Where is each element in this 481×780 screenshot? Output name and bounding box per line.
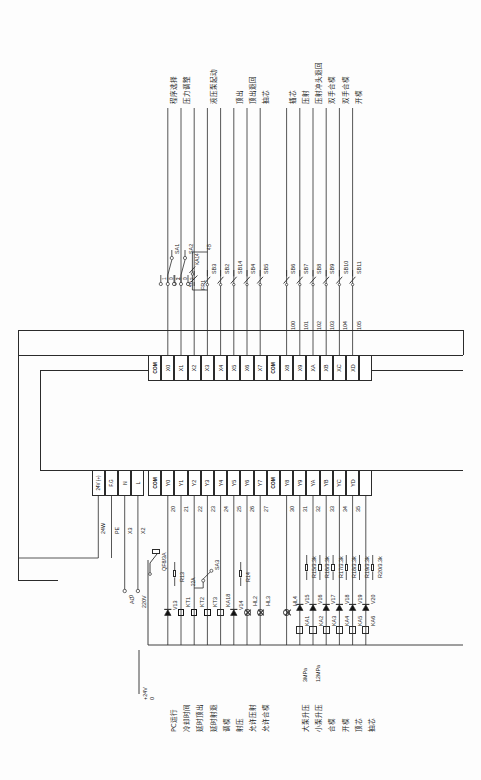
resistor-label-R17/3.3k: R17/3.3k — [339, 556, 344, 578]
input-terminal-blank[interactable] — [359, 355, 372, 381]
output-terminal-wire-22: 22 — [198, 506, 203, 512]
psu-wire-X2: X2 — [141, 527, 146, 534]
indicator-lamp-HL3 — [257, 609, 264, 616]
output-terminal-com[interactable]: COM — [267, 470, 280, 496]
psu-terminal-n[interactable]: N — [118, 470, 131, 496]
symbol-overlay — [0, 0, 481, 780]
input-function-XB: 双手合模 — [329, 76, 336, 104]
psu-terminal-fg[interactable]: F.G — [105, 470, 118, 496]
output-device-HL4: HL4 — [293, 596, 298, 606]
input-function-X0: 程序选择 — [171, 76, 178, 104]
input-terminal-xa[interactable]: XA — [306, 355, 319, 381]
output-terminal-wire-25: 25 — [237, 506, 242, 512]
resistor-R18/3.3k — [345, 564, 348, 571]
resistor-label-R16/3.3k: R16/3.3k — [325, 556, 330, 578]
supply-0v-label: 0 — [150, 697, 155, 700]
output-function-YC: 开模 — [343, 718, 350, 732]
resistor-label-R15/3.3k: R15/3.3k — [312, 556, 317, 578]
output-terminal-wire-33: 33 — [330, 506, 335, 512]
output-terminal-yc[interactable]: YC — [333, 470, 346, 496]
resistor-R15/3.3k — [305, 564, 308, 571]
input-terminal-com[interactable]: COM — [148, 355, 161, 381]
coil-KT3 — [204, 609, 211, 616]
input-device-SA2: SA2 — [189, 244, 194, 254]
output-function-Y0: PC运行 — [171, 709, 178, 732]
input-terminal-x8[interactable]: X8 — [280, 355, 293, 381]
psu-wire-PE: PE — [115, 527, 120, 534]
output-terminal-y4[interactable]: Y4 — [214, 470, 227, 496]
supply-24v-label: +24V — [143, 687, 148, 700]
input-terminal-com[interactable]: COM — [267, 355, 280, 381]
input-terminal-xd[interactable]: XD — [346, 355, 359, 381]
resistor-R17/3.3k — [331, 564, 334, 571]
output-terminal-y1[interactable]: Y1 — [174, 470, 187, 496]
input-terminal-x2[interactable]: X2 — [188, 355, 201, 381]
input-function-XA: 压射冲头退回 — [316, 62, 323, 104]
output-terminal-yd[interactable]: YD — [346, 470, 359, 496]
psu-terminal-l[interactable]: L — [131, 470, 144, 496]
output-function-V20: 抽芯 — [369, 718, 376, 732]
input-device-SB9: SB9 — [330, 264, 335, 274]
output-terminal-y2[interactable]: Y2 — [188, 470, 201, 496]
input-terminal-xc[interactable]: XC — [333, 355, 346, 381]
output-terminal-com[interactable]: COM — [148, 470, 161, 496]
input-terminal-x4[interactable]: X4 — [214, 355, 227, 381]
output-function-Y3: 延时射退 — [211, 704, 218, 732]
input-device-SB2: SB2 — [225, 264, 230, 274]
output-device-KA4: KA4 — [345, 616, 350, 626]
resistor-R13 — [173, 570, 176, 577]
input-terminal-x9[interactable]: X9 — [293, 355, 306, 381]
output-terminal-y5[interactable]: Y5 — [227, 470, 240, 496]
input-terminal-x5[interactable]: X5 — [227, 355, 240, 381]
resistor-R20/3.3k — [371, 564, 374, 571]
output-terminal-wire-34: 34 — [343, 506, 348, 512]
output-terminal-wire-35: 35 — [356, 506, 361, 512]
selector-pos-SA2-2: 2 — [191, 277, 196, 280]
output-terminal-y3[interactable]: Y3 — [201, 470, 214, 496]
diode-V15: V15 — [305, 594, 310, 604]
input-terminal-x6[interactable]: X6 — [240, 355, 253, 381]
output-device-KA18: KA18 — [226, 594, 231, 607]
coil-KA18 — [217, 609, 224, 616]
output-terminal-y9[interactable]: Y9 — [293, 470, 306, 496]
diode-V16: V16 — [318, 594, 323, 604]
psu-wire-X3: X3 — [128, 527, 133, 534]
input-function-X8: 插芯 — [290, 90, 297, 104]
resistor-R19/3.3k — [358, 564, 361, 571]
input-device-SA1: SA1 — [175, 244, 180, 254]
output-terminal-y0[interactable]: Y0 — [161, 470, 174, 496]
input-terminal-x7[interactable]: X7 — [254, 355, 267, 381]
resistor-R14 — [239, 570, 242, 577]
output-terminal-blank[interactable] — [359, 470, 372, 496]
output-terminal-y7[interactable]: Y7 — [254, 470, 267, 496]
output-terminal-y6[interactable]: Y6 — [240, 470, 253, 496]
input-terminal-x1[interactable]: X1 — [174, 355, 187, 381]
output-device-KA5: KA5 — [358, 616, 363, 626]
input-wire-104: 104 — [343, 321, 348, 330]
ac-voltage-label: 220V — [142, 595, 147, 608]
psu-terminal-24v[interactable]: 24V (+) — [92, 470, 105, 496]
coil-KT1 — [178, 609, 185, 616]
diode-V18: V18 — [345, 594, 350, 604]
resistor-label-R14: R14 — [246, 572, 251, 582]
selector-pos-SA1-0: 0 — [170, 277, 175, 280]
output-terminal-ya[interactable]: YA — [306, 470, 319, 496]
output-function-Y4: 调模 — [224, 718, 231, 732]
output-terminal-wire-21: 21 — [184, 506, 189, 512]
frame-left — [18, 330, 19, 580]
input-function-X6: 顶出退回 — [250, 76, 257, 104]
output-terminal-yb[interactable]: YB — [320, 470, 333, 496]
input-terminal-x3[interactable]: X3 — [201, 355, 214, 381]
output-terminal-y8[interactable]: Y8 — [280, 470, 293, 496]
output-terminal-wire-27: 27 — [264, 506, 269, 512]
input-terminal-x0[interactable]: X0 — [161, 355, 174, 381]
output-device-KT2: KT2 — [200, 597, 205, 607]
input-terminal-xb[interactable]: XB — [320, 355, 333, 381]
input-device-FR1: FR1 — [201, 280, 206, 290]
selector-SA3: SA3 — [215, 560, 220, 570]
input-device-SB4: SB4 — [251, 264, 256, 274]
output-device-HL3: HL3 — [266, 596, 271, 606]
input-wire-101: 101 — [304, 321, 309, 330]
selector-pos-SA2-0: 0 — [184, 277, 189, 280]
schematic-canvas: COMX0X1X2X3X4X5X6X7COMX8X9XAXBXCXD COMY0… — [0, 0, 481, 780]
